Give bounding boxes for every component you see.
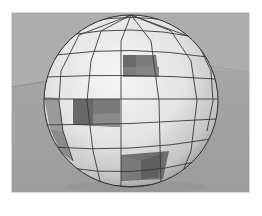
render-viewport — [11, 12, 250, 193]
sphere-render — [12, 13, 250, 193]
